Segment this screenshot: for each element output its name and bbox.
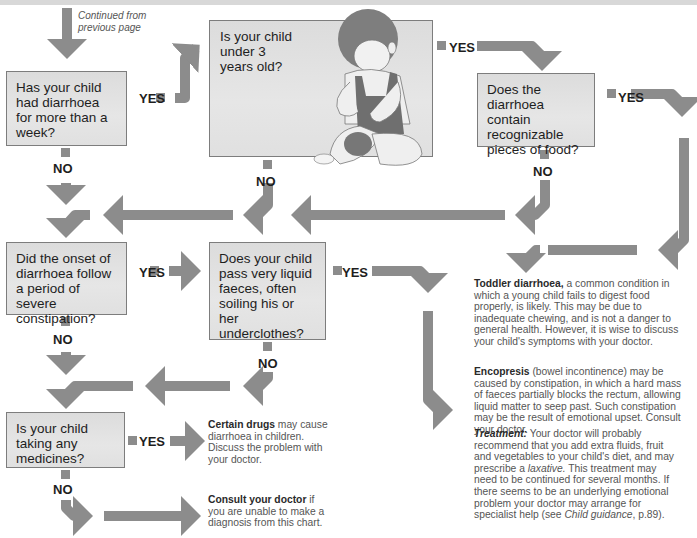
treatment-title: Treatment: xyxy=(474,428,527,439)
outcome-title: Certain drugs xyxy=(208,419,275,430)
q6-yes-label: YES xyxy=(139,434,165,449)
outcome-title: Encopresis xyxy=(474,366,530,377)
q6-no-label: NO xyxy=(53,482,73,497)
q5-yes-square xyxy=(333,266,342,275)
q1-yes-label: YES xyxy=(139,91,165,106)
outcome-consult-doctor: Consult your doctor if you are unable to… xyxy=(208,494,330,529)
q2-yes-square xyxy=(437,41,446,50)
q5-no-label: NO xyxy=(258,356,278,371)
q1-yes-arrow xyxy=(175,48,196,98)
question-text: Did the onset of diarrhoea follow a peri… xyxy=(16,251,111,326)
question-text: Does your child pass very liquid faeces,… xyxy=(219,251,312,341)
outcome-title: Consult your doctor xyxy=(208,494,306,505)
question-box-medicines: Is your child taking any medicines? xyxy=(6,412,125,468)
q4-no-label: NO xyxy=(53,332,73,347)
q2-yes-label: YES xyxy=(449,40,475,55)
question-text: Does the diarrhoea contain recognizable … xyxy=(487,82,579,157)
question-text: Is your child under 3 years old? xyxy=(220,29,300,74)
question-text: Is your child taking any medicines? xyxy=(16,421,88,466)
to-q4-arrow xyxy=(66,215,90,233)
q6-yes-square xyxy=(128,436,137,445)
outcome-title: Toddler diarrhoea, xyxy=(474,278,564,289)
outcome-certain-drugs: Certain drugs may cause diarrhoea in chi… xyxy=(208,419,328,465)
treatment-laxative: laxative. xyxy=(528,463,566,474)
question-box-constipation: Did the onset of diarrhoea follow a peri… xyxy=(6,242,127,315)
q5-yes-arrow-top xyxy=(372,271,428,288)
question-box-food-pieces: Does the diarrhoea contain recognizable … xyxy=(477,73,595,147)
q3-no-label: NO xyxy=(533,164,553,179)
q3-yes-square xyxy=(607,89,616,98)
q6-no-square xyxy=(61,470,70,479)
q2-no-label: NO xyxy=(256,174,276,189)
q3-no-arrow xyxy=(520,180,545,215)
q5-yes-label: YES xyxy=(342,265,368,280)
baby-illustration xyxy=(300,4,430,169)
child-guidance-reference: Child guidance xyxy=(564,509,632,520)
to-q6-arrow xyxy=(66,386,133,404)
q6-no-arrow-bend xyxy=(66,500,88,516)
q3-yes-label: YES xyxy=(618,90,644,105)
outcome-encopresis: Encopresis (bowel incontinence) may be c… xyxy=(474,366,682,436)
q1-no-square xyxy=(61,148,70,157)
question-box-liquid-faeces: Does your child pass very liquid faeces,… xyxy=(209,242,326,340)
q3-yes-arrow-end xyxy=(526,250,540,268)
question-text: Has your child had diarrhoea for more th… xyxy=(16,80,108,140)
q5-no-square xyxy=(263,342,272,351)
q5-no-arrow xyxy=(248,372,268,386)
q2-yes-arrow xyxy=(477,46,542,66)
outcome-treatment: Treatment: Your doctor will probably rec… xyxy=(474,428,682,521)
treatment-body: , p.89). xyxy=(633,509,665,520)
q1-no-label: NO xyxy=(53,161,73,176)
outcome-toddler-diarrhoea: Toddler diarrhoea, a common condition in… xyxy=(474,278,682,348)
q4-yes-label: YES xyxy=(139,265,165,280)
q2-no-square xyxy=(263,160,272,169)
q5-yes-arrow-bottom xyxy=(428,311,448,410)
question-box-duration: Has your child had diarrhoea for more th… xyxy=(6,71,127,146)
continued-note: Continued from previous page xyxy=(78,10,168,33)
q3-yes-arrow-right xyxy=(663,138,684,250)
